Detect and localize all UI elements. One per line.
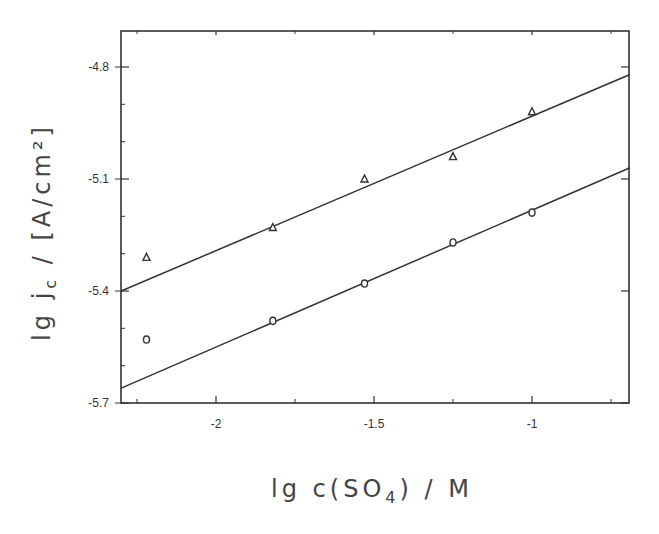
- x-tick-label: -2: [211, 417, 222, 431]
- plot-border: [121, 31, 629, 403]
- triangle-marker: [361, 175, 368, 182]
- y-tick-label: -4.8: [88, 60, 109, 74]
- circle-marker: [450, 239, 456, 246]
- x-tick-label: -1: [527, 417, 538, 431]
- circles-fit-line: [121, 168, 630, 388]
- triangles-fit-line: [121, 74, 630, 291]
- circle-marker: [362, 280, 368, 287]
- y-axis-label: lg jc / [A/cm²]: [28, 123, 60, 341]
- chart: -2-1.5-1 -4.8-5.1-5.4-5.7 lg c(SO4) / M …: [0, 0, 659, 534]
- x-tick-label: -1.5: [364, 417, 385, 431]
- x-axis-label: lg c(SO4) / M: [271, 475, 473, 507]
- triangle-marker: [269, 224, 276, 231]
- fit-lines: [121, 74, 630, 388]
- triangle-marker: [450, 153, 457, 160]
- triangle-marker: [529, 108, 536, 115]
- y-tick-label: -5.1: [88, 172, 109, 186]
- y-axis-ticks: -4.8-5.1-5.4-5.7: [88, 60, 629, 410]
- x-axis-ticks: -2-1.5-1: [137, 31, 611, 431]
- triangle-marker: [143, 253, 150, 260]
- circle-marker: [143, 336, 149, 343]
- plot-frame: [121, 31, 629, 403]
- y-tick-label: -5.4: [88, 284, 109, 298]
- circle-marker: [270, 317, 276, 324]
- y-tick-label: -5.7: [88, 396, 109, 410]
- data-points: [143, 108, 536, 343]
- circle-marker: [529, 209, 535, 216]
